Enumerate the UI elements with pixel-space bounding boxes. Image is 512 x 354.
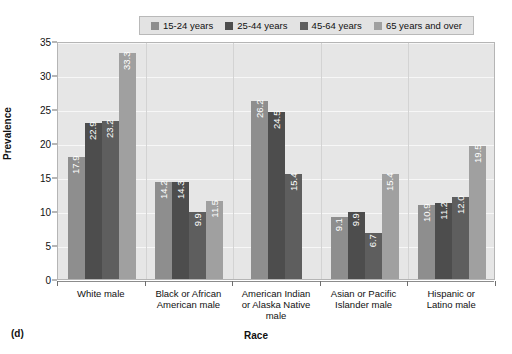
plot-frame: 17.922.923.233.314.214.39.911.526.224.51… xyxy=(57,42,495,280)
legend-swatch-icon xyxy=(300,22,308,30)
bar[interactable]: 11.5 xyxy=(206,201,223,279)
bar-group: 14.214.39.911.5 xyxy=(146,43,234,279)
plot-area: 17.922.923.233.314.214.39.911.526.224.51… xyxy=(58,43,494,279)
bar[interactable]: 15.4 xyxy=(285,174,302,279)
x-axis-category-label-line: Hispanic or xyxy=(407,288,495,299)
legend-entry[interactable]: 65 years and over xyxy=(374,21,462,31)
bar[interactable]: 14.2 xyxy=(155,182,172,279)
legend-label: 45-64 years xyxy=(312,21,362,31)
legend-swatch-icon xyxy=(374,22,382,30)
bar-value-label: 22.9 xyxy=(89,122,99,141)
bar-value-label: 11.5 xyxy=(210,200,220,218)
bar-group: 9.19.96.715.4 xyxy=(321,43,409,279)
bar-group: 17.922.923.233.3 xyxy=(58,43,146,279)
bar-value-label: 26.2 xyxy=(255,99,265,118)
bar[interactable]: 17.9 xyxy=(68,157,85,279)
chart-legend: 15-24 years25-44 years45-64 years65 year… xyxy=(139,16,474,35)
bar-value-label: 24.5 xyxy=(272,111,282,130)
x-axis-category-label-line: male xyxy=(232,310,320,321)
x-axis-tick-mark xyxy=(495,281,496,286)
bar[interactable]: 9.1 xyxy=(331,217,348,279)
y-axis-tick-label: 5 xyxy=(45,241,51,252)
panel-label: (d) xyxy=(11,328,24,339)
bar[interactable]: 15.4 xyxy=(382,174,399,279)
bar-value-label: 14.3 xyxy=(176,180,186,199)
x-axis-category-label: Black or AfricanAmerican male xyxy=(145,288,233,310)
bar-value-label: 15.4 xyxy=(385,173,395,192)
bar-group: 10.911.212.019.5 xyxy=(408,43,496,279)
x-axis-category-label-line: Asian or Pacific xyxy=(320,288,408,299)
x-axis: White maleBlack or AfricanAmerican maleA… xyxy=(57,281,495,327)
y-axis-title: Prevalence xyxy=(2,107,13,160)
bar[interactable]: 23.2 xyxy=(102,121,119,279)
y-axis-tick-label: 15 xyxy=(40,173,51,184)
y-axis-tick-label: 35 xyxy=(40,37,51,48)
legend-label: 25-44 years xyxy=(237,21,287,31)
legend-label: 15-24 years xyxy=(163,21,213,31)
x-axis-category-label-line: Islander male xyxy=(320,299,408,310)
bar[interactable]: 6.7 xyxy=(365,233,382,279)
y-axis-tick-label: 20 xyxy=(40,139,51,150)
x-axis-category-label-line: White male xyxy=(57,288,145,299)
bar-value-label: 11.2 xyxy=(439,202,449,220)
y-axis: 05101520253035 xyxy=(20,42,57,280)
bar-value-label: 17.9 xyxy=(72,156,82,175)
bar[interactable]: 26.2 xyxy=(251,101,268,279)
x-axis-category-label-line: Black or African xyxy=(145,288,233,299)
x-axis-tick-mark xyxy=(145,281,146,286)
bar[interactable]: 10.9 xyxy=(418,205,435,279)
legend-entry[interactable]: 45-64 years xyxy=(300,21,362,31)
bar-value-label: 9.9 xyxy=(351,213,361,226)
x-axis-tick-mark xyxy=(407,281,408,286)
bar-value-label: 15.4 xyxy=(289,173,299,192)
bar[interactable]: 33.3 xyxy=(119,53,136,279)
bar-value-label: 12.0 xyxy=(456,196,466,215)
bar-value-label: 14.2 xyxy=(159,181,169,200)
bar-value-label: 33.3 xyxy=(123,51,133,70)
y-axis-tick-label: 30 xyxy=(40,71,51,82)
bar[interactable]: 9.9 xyxy=(348,212,365,279)
bar[interactable]: 12.0 xyxy=(452,197,469,279)
x-axis-category-label: Hispanic orLatino male xyxy=(407,288,495,310)
legend-entry[interactable]: 25-44 years xyxy=(225,21,287,31)
legend-swatch-icon xyxy=(225,22,233,30)
bar[interactable]: 19.5 xyxy=(469,146,486,279)
x-axis-category-label: White male xyxy=(57,288,145,299)
y-axis-tick-label: 10 xyxy=(40,207,51,218)
x-axis-tick-mark xyxy=(57,281,58,286)
x-axis-category-label-line: Latino male xyxy=(407,299,495,310)
bar[interactable]: 24.5 xyxy=(268,112,285,279)
bar[interactable]: 14.3 xyxy=(172,182,189,279)
x-axis-category-label: American Indianor Alaska Nativemale xyxy=(232,288,320,321)
bar-group: 26.224.515.4 xyxy=(233,43,321,279)
y-axis-tick-label: 25 xyxy=(40,105,51,116)
x-axis-category-label-line: American Indian xyxy=(232,288,320,299)
x-axis-tick-mark xyxy=(232,281,233,286)
bar-value-label: 9.1 xyxy=(334,218,344,231)
bar-value-label: 10.9 xyxy=(422,203,432,222)
legend-swatch-icon xyxy=(151,22,159,30)
y-axis-tick-label: 0 xyxy=(45,275,51,286)
x-axis-title: Race xyxy=(0,330,512,341)
bar-value-label: 9.9 xyxy=(193,213,203,226)
bar-value-label: 23.2 xyxy=(106,120,116,139)
x-axis-category-label-line: or Alaska Native xyxy=(232,299,320,310)
x-axis-tick-mark xyxy=(320,281,321,286)
legend-label: 65 years and over xyxy=(386,21,462,31)
bar[interactable]: 22.9 xyxy=(85,123,102,279)
x-axis-category-label-line: American male xyxy=(145,299,233,310)
x-axis-category-label: Asian or PacificIslander male xyxy=(320,288,408,310)
bar[interactable]: 9.9 xyxy=(189,212,206,279)
bar-value-label: 19.5 xyxy=(473,145,483,164)
bar-value-label: 6.7 xyxy=(368,235,378,248)
bar[interactable]: 11.2 xyxy=(435,203,452,279)
legend-entry[interactable]: 15-24 years xyxy=(151,21,213,31)
